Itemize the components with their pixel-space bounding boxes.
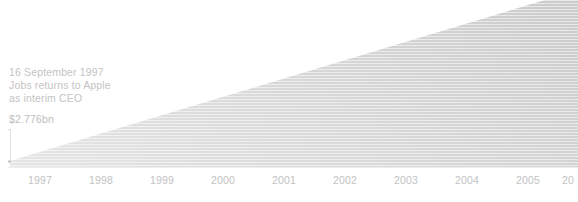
annotation-date: 16 September 1997 xyxy=(9,66,199,79)
x-tick-label: 20 xyxy=(562,174,574,187)
x-tick-label: 2002 xyxy=(333,174,357,187)
x-tick-label: 1999 xyxy=(150,174,174,187)
annotation-text-line-1: Jobs returns to Apple xyxy=(9,79,199,92)
jobs-returns-annotation: 16 September 1997 Jobs returns to Apple … xyxy=(9,66,199,105)
annotation-value-label: $2.776bn xyxy=(9,113,54,126)
x-tick-label: 1998 xyxy=(89,174,113,187)
x-tick-label: 2003 xyxy=(394,174,418,187)
x-tick-label: 2000 xyxy=(211,174,235,187)
x-axis-line xyxy=(8,167,578,168)
y-axis-tick-cap xyxy=(8,129,11,130)
x-tick-label: 2004 xyxy=(455,174,479,187)
x-axis-tick-labels: 19971998199920002001200220032004200520 xyxy=(0,174,578,194)
area-chart: 16 September 1997 Jobs returns to Apple … xyxy=(0,0,578,202)
annotation-text-line-2: as interim CEO xyxy=(9,92,199,105)
x-tick-label: 2001 xyxy=(272,174,296,187)
x-tick-label: 2005 xyxy=(516,174,540,187)
x-tick-label: 1997 xyxy=(28,174,52,187)
start-value-marker xyxy=(8,160,11,163)
